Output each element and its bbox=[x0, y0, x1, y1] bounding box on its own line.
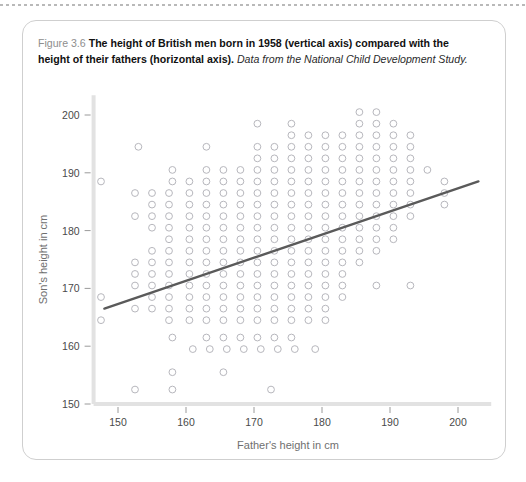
data-point bbox=[356, 167, 363, 174]
data-point bbox=[305, 143, 312, 150]
data-point bbox=[322, 259, 329, 266]
data-point bbox=[424, 167, 431, 174]
data-point bbox=[322, 143, 329, 150]
data-point bbox=[186, 236, 193, 243]
data-point bbox=[220, 178, 227, 185]
data-point bbox=[203, 259, 210, 266]
data-point bbox=[186, 259, 193, 266]
data-point bbox=[373, 178, 380, 185]
data-point bbox=[271, 317, 278, 324]
data-point bbox=[288, 271, 295, 278]
data-point bbox=[186, 271, 193, 278]
data-point bbox=[186, 317, 193, 324]
data-point bbox=[220, 369, 227, 376]
data-point bbox=[149, 259, 156, 266]
data-point bbox=[339, 178, 346, 185]
data-point bbox=[390, 236, 397, 243]
data-point bbox=[203, 190, 210, 197]
plot-svg: 150160170180190200 150160170180190200 Fa… bbox=[0, 0, 526, 482]
data-point bbox=[186, 247, 193, 254]
data-point bbox=[268, 386, 275, 393]
y-tick-label: 180 bbox=[62, 225, 80, 237]
data-point bbox=[373, 155, 380, 162]
data-point bbox=[305, 201, 312, 208]
data-point bbox=[407, 132, 414, 139]
data-point bbox=[288, 247, 295, 254]
data-point bbox=[237, 247, 244, 254]
data-point bbox=[373, 236, 380, 243]
data-point bbox=[373, 224, 380, 231]
data-point bbox=[220, 247, 227, 254]
regression-line bbox=[104, 181, 478, 308]
data-point bbox=[166, 201, 173, 208]
data-point bbox=[220, 305, 227, 312]
data-point bbox=[356, 120, 363, 127]
data-point bbox=[237, 224, 244, 231]
data-point bbox=[271, 236, 278, 243]
data-point bbox=[237, 236, 244, 243]
data-point bbox=[288, 317, 295, 324]
data-point bbox=[166, 259, 173, 266]
data-point bbox=[203, 334, 210, 341]
data-point bbox=[373, 201, 380, 208]
data-point bbox=[149, 294, 156, 301]
data-point bbox=[373, 282, 380, 289]
data-point bbox=[254, 120, 261, 127]
data-point bbox=[356, 259, 363, 266]
data-point bbox=[373, 247, 380, 254]
data-point bbox=[288, 132, 295, 139]
data-point bbox=[322, 178, 329, 185]
data-point bbox=[254, 178, 261, 185]
data-point bbox=[254, 201, 261, 208]
data-point bbox=[305, 224, 312, 231]
data-point bbox=[254, 334, 261, 341]
data-point bbox=[339, 213, 346, 220]
data-point bbox=[312, 346, 319, 353]
data-point bbox=[254, 259, 261, 266]
data-point bbox=[390, 190, 397, 197]
data-point bbox=[373, 190, 380, 197]
data-point bbox=[373, 143, 380, 150]
data-point bbox=[322, 317, 329, 324]
data-point bbox=[237, 213, 244, 220]
data-point bbox=[220, 167, 227, 174]
data-point bbox=[166, 236, 173, 243]
data-point bbox=[220, 201, 227, 208]
data-point bbox=[271, 167, 278, 174]
data-point bbox=[322, 282, 329, 289]
data-point bbox=[186, 178, 193, 185]
data-point bbox=[254, 236, 261, 243]
data-point bbox=[441, 201, 448, 208]
data-point bbox=[322, 271, 329, 278]
data-point bbox=[220, 224, 227, 231]
data-point bbox=[98, 317, 105, 324]
data-point bbox=[305, 271, 312, 278]
data-point bbox=[132, 190, 139, 197]
data-point bbox=[254, 294, 261, 301]
data-point bbox=[166, 305, 173, 312]
data-point bbox=[203, 282, 210, 289]
data-point bbox=[169, 334, 176, 341]
y-tick-label: 190 bbox=[62, 167, 80, 179]
y-tick-label: 150 bbox=[62, 398, 80, 410]
data-point bbox=[288, 213, 295, 220]
data-point bbox=[390, 167, 397, 174]
data-point bbox=[166, 190, 173, 197]
data-point bbox=[322, 167, 329, 174]
data-point bbox=[373, 120, 380, 127]
data-point bbox=[322, 294, 329, 301]
data-point bbox=[305, 294, 312, 301]
data-point bbox=[305, 190, 312, 197]
data-point bbox=[288, 294, 295, 301]
data-point bbox=[288, 282, 295, 289]
data-point bbox=[305, 178, 312, 185]
x-axis-ticks: 150160170180190200 bbox=[109, 407, 467, 428]
data-point bbox=[186, 224, 193, 231]
data-point bbox=[322, 190, 329, 197]
x-tick-label: 190 bbox=[381, 416, 399, 428]
data-point bbox=[271, 294, 278, 301]
data-point bbox=[305, 247, 312, 254]
data-point bbox=[291, 346, 298, 353]
data-point bbox=[186, 294, 193, 301]
data-point bbox=[288, 190, 295, 197]
